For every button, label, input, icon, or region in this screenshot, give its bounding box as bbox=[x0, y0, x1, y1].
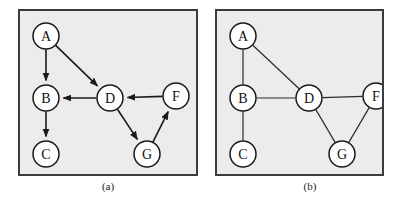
panel-a-caption: (a) bbox=[88, 180, 128, 192]
edge-d-f bbox=[322, 96, 362, 97]
node-circle-d bbox=[97, 85, 123, 111]
graph-node-c[interactable]: C bbox=[33, 141, 59, 167]
figure-root: ABCDFG ABCDFG (a) (b) bbox=[0, 0, 401, 198]
node-group: ABCDFG bbox=[33, 23, 189, 167]
node-circle-g bbox=[329, 141, 355, 167]
graph-node-f[interactable]: F bbox=[163, 83, 189, 109]
edge-g-f bbox=[153, 112, 168, 142]
graph-node-g[interactable]: G bbox=[329, 141, 355, 167]
node-circle-f bbox=[363, 83, 382, 109]
node-circle-b bbox=[230, 85, 256, 111]
node-circle-c bbox=[33, 141, 59, 167]
node-circle-d bbox=[296, 85, 322, 111]
directed-graph-diagram: ABCDFG bbox=[20, 11, 196, 174]
graph-node-d[interactable]: D bbox=[296, 85, 322, 111]
panel-b-caption: (b) bbox=[290, 180, 330, 192]
graph-node-b[interactable]: B bbox=[33, 85, 59, 111]
node-group: ABCDFG bbox=[230, 23, 382, 167]
node-circle-c bbox=[230, 141, 256, 167]
edge-a-d bbox=[56, 45, 98, 85]
edge-a-d bbox=[253, 45, 299, 89]
edge-d-g bbox=[316, 110, 335, 143]
graph-node-b[interactable]: B bbox=[230, 85, 256, 111]
graph-node-a[interactable]: A bbox=[33, 23, 59, 49]
edge-f-g bbox=[349, 108, 369, 143]
node-circle-f bbox=[163, 83, 189, 109]
graph-node-c[interactable]: C bbox=[230, 141, 256, 167]
undirected-graph-diagram: ABCDFG bbox=[217, 11, 382, 174]
graph-panel-a: ABCDFG bbox=[18, 9, 198, 176]
graph-node-f[interactable]: F bbox=[363, 83, 382, 109]
graph-node-d[interactable]: D bbox=[97, 85, 123, 111]
node-circle-b bbox=[33, 85, 59, 111]
graph-node-a[interactable]: A bbox=[230, 23, 256, 49]
node-circle-a bbox=[230, 23, 256, 49]
edge-d-g bbox=[117, 109, 137, 139]
graph-panel-b: ABCDFG bbox=[215, 9, 384, 176]
edge-f-d bbox=[127, 96, 162, 97]
node-circle-a bbox=[33, 23, 59, 49]
graph-node-g[interactable]: G bbox=[134, 141, 160, 167]
node-circle-g bbox=[134, 141, 160, 167]
